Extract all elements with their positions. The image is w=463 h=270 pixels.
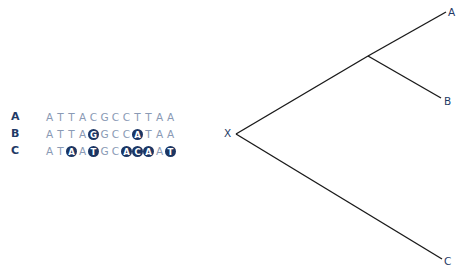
leaf-label-c: C (444, 255, 451, 267)
branch-internal-b (368, 56, 441, 98)
branch-internal-a (368, 12, 446, 56)
phylogenetic-tree (0, 0, 463, 270)
leaf-label-b: B (444, 95, 451, 107)
root-node-label: X (224, 127, 231, 139)
branch-x-c (236, 134, 442, 259)
leaf-label-a: A (448, 6, 455, 18)
branch-x-internal (236, 56, 368, 134)
